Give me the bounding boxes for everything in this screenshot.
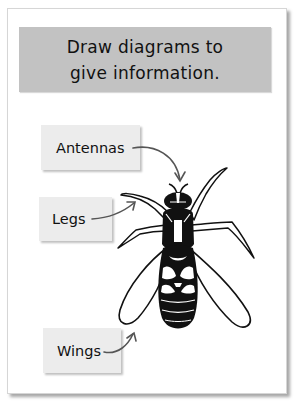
head-icon [164, 192, 192, 210]
arrow-antennas-icon [133, 147, 185, 181]
arrow-wings-icon [104, 333, 136, 353]
antennae-icon [169, 184, 188, 193]
insect-icon [118, 168, 254, 329]
insect-diagram [0, 0, 299, 410]
arrow-legs-icon [92, 202, 135, 219]
thorax-icon [162, 208, 194, 250]
abdomen-icon [158, 245, 197, 329]
